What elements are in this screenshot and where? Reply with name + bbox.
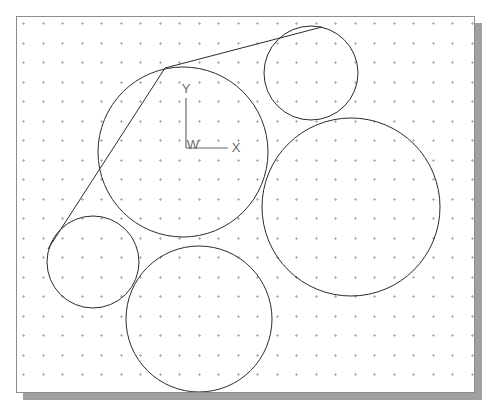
grid-dot xyxy=(355,139,356,142)
grid-dot xyxy=(296,373,297,376)
grid-dot xyxy=(82,256,83,259)
grid-dot xyxy=(452,315,453,318)
grid-dot xyxy=(160,373,161,376)
grid-dot xyxy=(257,373,258,376)
grid-dot xyxy=(238,315,239,318)
circle-layer[interactable] xyxy=(47,26,440,392)
grid-dot xyxy=(296,198,297,201)
grid-dot xyxy=(140,81,141,84)
grid-dot xyxy=(238,178,239,181)
grid-dot xyxy=(199,334,200,337)
grid-dot xyxy=(374,139,375,142)
grid-dot xyxy=(43,198,44,201)
grid-dot xyxy=(413,42,414,45)
grid-dot xyxy=(296,42,297,45)
grid-dot xyxy=(355,276,356,279)
grid-dot xyxy=(23,256,24,259)
grid-dot xyxy=(43,61,44,64)
circle-bottom-medium[interactable] xyxy=(126,246,272,392)
grid-dot xyxy=(199,276,200,279)
grid-dot xyxy=(62,22,63,25)
grid-dot xyxy=(374,198,375,201)
grid-dot xyxy=(218,178,219,181)
grid-dot xyxy=(277,100,278,103)
grid-dot xyxy=(23,61,24,64)
grid-dot xyxy=(413,315,414,318)
grid-dot xyxy=(316,120,317,123)
grid-dot xyxy=(257,198,258,201)
grid-dot xyxy=(101,315,102,318)
grid-dot xyxy=(433,42,434,45)
grid-dot xyxy=(433,334,434,337)
grid-dot xyxy=(23,81,24,84)
grid-dot xyxy=(257,334,258,337)
grid-dot xyxy=(374,159,375,162)
grid-dot xyxy=(121,256,122,259)
grid-dot xyxy=(296,295,297,298)
grid-dot xyxy=(101,42,102,45)
grid-dot xyxy=(43,217,44,220)
grid-dot xyxy=(452,354,453,357)
grid-dot xyxy=(257,100,258,103)
grid-dot xyxy=(101,295,102,298)
grid-dot xyxy=(277,354,278,357)
grid-dot xyxy=(179,334,180,337)
grid-dot xyxy=(316,61,317,64)
grid-dot xyxy=(335,120,336,123)
tangent-left[interactable] xyxy=(48,68,165,249)
grid-dot xyxy=(218,315,219,318)
grid-dot xyxy=(43,100,44,103)
grid-dot xyxy=(433,81,434,84)
x-axis-label: X xyxy=(232,140,241,155)
grid-dot xyxy=(452,295,453,298)
grid-dot xyxy=(23,100,24,103)
grid-dot xyxy=(101,256,102,259)
grid-dot xyxy=(218,354,219,357)
grid-dot xyxy=(82,295,83,298)
grid-dot xyxy=(394,315,395,318)
grid-dot xyxy=(355,159,356,162)
circle-top-right[interactable] xyxy=(264,26,358,120)
grid-dot xyxy=(121,22,122,25)
grid-dot xyxy=(82,373,83,376)
grid-dot xyxy=(413,139,414,142)
grid-dot xyxy=(82,120,83,123)
grid-dot xyxy=(238,159,239,162)
grid-dot xyxy=(257,22,258,25)
grid-dot xyxy=(62,198,63,201)
grid-dot xyxy=(394,139,395,142)
grid-dot xyxy=(199,61,200,64)
grid-dot xyxy=(218,217,219,220)
grid-dot xyxy=(160,178,161,181)
grid-dot xyxy=(101,237,102,240)
tangent-top[interactable] xyxy=(165,27,322,68)
grid-dot xyxy=(121,42,122,45)
grid-dot xyxy=(62,315,63,318)
grid-dot xyxy=(316,159,317,162)
grid-dot xyxy=(277,42,278,45)
grid-dot xyxy=(257,159,258,162)
grid-dot xyxy=(82,354,83,357)
grid-dot xyxy=(199,159,200,162)
grid-dot xyxy=(238,61,239,64)
grid-dot xyxy=(101,61,102,64)
grid-dot xyxy=(179,217,180,220)
grid-dot xyxy=(374,334,375,337)
grid-dot xyxy=(199,373,200,376)
grid-dot xyxy=(218,42,219,45)
grid-dot xyxy=(62,237,63,240)
grid-dot xyxy=(62,159,63,162)
grid-dot xyxy=(121,373,122,376)
grid-dot xyxy=(316,334,317,337)
grid-dot xyxy=(23,139,24,142)
grid-dot xyxy=(452,100,453,103)
drawing-canvas[interactable]: YXW xyxy=(16,16,475,393)
grid-dot xyxy=(452,139,453,142)
grid-dot xyxy=(23,354,24,357)
grid-dot xyxy=(472,159,473,162)
grid-dot xyxy=(238,276,239,279)
grid-dot xyxy=(121,81,122,84)
geometry-svg[interactable]: YXW xyxy=(17,17,474,392)
circle-right-large[interactable] xyxy=(262,118,440,296)
grid-dot xyxy=(452,256,453,259)
